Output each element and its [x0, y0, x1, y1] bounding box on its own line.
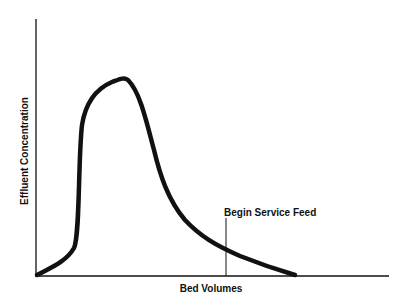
y-axis-label: Effluent Concentration [19, 97, 30, 205]
effluent-curve [37, 79, 295, 275]
x-axis-label: Bed Volumes [180, 283, 243, 294]
annotation-label: Begin Service Feed [224, 207, 316, 218]
chart: Begin Service Feed Bed Volumes Effluent … [0, 0, 408, 304]
